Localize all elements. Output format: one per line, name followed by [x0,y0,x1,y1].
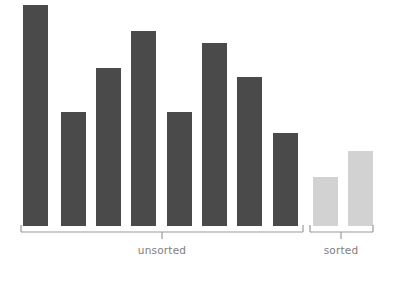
bar-7 [237,77,262,226]
bar-9 [313,177,338,226]
bar-3 [96,68,121,226]
bar-4 [131,31,156,226]
bar-6 [202,43,227,226]
bar-10 [348,151,373,226]
plot-area [0,0,402,226]
unsorted-bracket [21,225,303,239]
group-label-unsorted: unsorted [102,244,222,256]
bar-2 [61,112,86,226]
bar-5 [167,112,192,226]
group-label-sorted: sorted [281,244,401,256]
sorted-bracket [310,225,373,239]
bar-8 [273,133,298,226]
bar-1 [23,5,48,226]
bar-chart-figure: unsorted sorted [0,0,402,281]
